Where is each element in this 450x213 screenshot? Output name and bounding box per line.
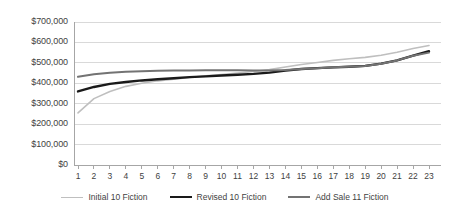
- y-axis-tick-label: $200,000: [0, 118, 68, 128]
- legend-line-swatch: [288, 196, 310, 198]
- series-line: [78, 45, 429, 112]
- legend-item[interactable]: Revised 10 Fiction: [170, 192, 267, 202]
- data-series-group: [78, 45, 429, 112]
- y-axis-tick-label: $300,000: [0, 98, 68, 108]
- legend-line-swatch: [170, 196, 192, 198]
- y-axis-tick-label: $400,000: [0, 77, 68, 87]
- y-axis-tick-label: $0: [0, 159, 68, 169]
- x-axis-tick-label: 23: [419, 171, 439, 181]
- legend-label: Add Sale 11 Fiction: [315, 192, 388, 202]
- x-axis-ticks: [78, 165, 429, 169]
- legend-label: Initial 10 Fiction: [88, 192, 147, 202]
- legend-item[interactable]: Initial 10 Fiction: [61, 192, 147, 202]
- chart-legend: Initial 10 FictionRevised 10 FictionAdd …: [0, 188, 450, 206]
- line-chart: $0$100,000$200,000$300,000$400,000$500,0…: [0, 0, 450, 213]
- legend-item[interactable]: Add Sale 11 Fiction: [288, 192, 388, 202]
- gridlines: [74, 22, 441, 165]
- axis-lines: [74, 22, 441, 165]
- y-axis-tick-label: $600,000: [0, 36, 68, 46]
- y-axis-tick-label: $700,000: [0, 16, 68, 26]
- y-axis-tick-label: $500,000: [0, 57, 68, 67]
- legend-line-swatch: [61, 197, 83, 198]
- y-axis-tick-label: $100,000: [0, 139, 68, 149]
- legend-label: Revised 10 Fiction: [197, 192, 267, 202]
